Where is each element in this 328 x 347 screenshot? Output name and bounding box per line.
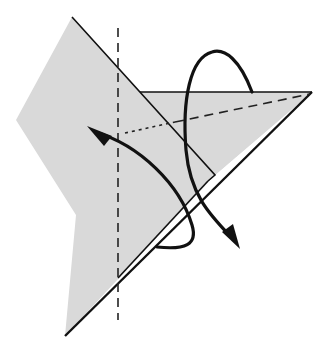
origami-diagram [0, 0, 328, 347]
arrowhead-loop-icon [222, 224, 240, 249]
